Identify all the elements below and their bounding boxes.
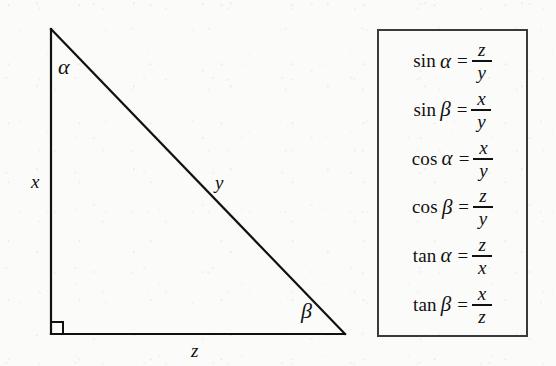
fraction: x y [473, 138, 493, 180]
fraction-numerator: x [475, 284, 489, 303]
side-label-y: y [215, 173, 223, 192]
equals-sign: = [457, 294, 468, 316]
function-name: sin [413, 50, 436, 72]
fraction-denominator: y [476, 161, 490, 180]
function-argument: α [442, 146, 453, 171]
fraction-denominator: y [475, 63, 489, 82]
fraction-numerator: x [474, 89, 488, 108]
angle-label-beta: β [301, 300, 312, 322]
formula-row: sin α = z y [413, 39, 492, 83]
fraction: z y [473, 186, 493, 228]
function-name: tan [413, 245, 437, 267]
trigonometric-identities-box: sin α = z y sin β = x y cos α = x y cos … [377, 29, 528, 337]
fraction-denominator: z [475, 307, 488, 326]
fraction: z y [472, 40, 492, 82]
angle-label-alpha: α [58, 56, 70, 78]
fraction-numerator: z [475, 40, 488, 59]
right-angle-marker-icon [51, 322, 63, 334]
equals-sign: = [459, 148, 470, 170]
fraction: x y [471, 89, 491, 131]
fraction-denominator: x [475, 258, 489, 277]
fraction-denominator: y [474, 112, 488, 131]
function-argument: α [440, 49, 451, 74]
function-name: tan [413, 294, 437, 316]
fraction-numerator: x [476, 138, 490, 157]
fraction-numerator: z [476, 235, 489, 254]
triangle-hypotenuse [51, 29, 345, 334]
formula-row: tan β = x z [413, 283, 492, 327]
fraction: z x [472, 235, 492, 277]
fraction: x z [472, 284, 492, 326]
fraction-numerator: z [476, 186, 489, 205]
equals-sign: = [457, 50, 468, 72]
fraction-denominator: y [476, 209, 490, 228]
function-name: cos [412, 196, 438, 218]
side-label-x: x [31, 172, 39, 191]
side-label-z: z [191, 341, 198, 360]
formula-row: cos β = z y [412, 185, 493, 229]
function-argument: β [441, 292, 451, 317]
equals-sign: = [458, 196, 469, 218]
formula-row: cos α = x y [412, 137, 494, 181]
formula-row: sin β = x y [414, 88, 492, 132]
equals-sign: = [457, 99, 468, 121]
function-argument: β [440, 97, 450, 122]
function-name: cos [412, 148, 438, 170]
function-argument: α [441, 243, 452, 268]
function-name: sin [414, 99, 437, 121]
function-argument: β [442, 195, 452, 220]
equals-sign: = [458, 245, 469, 267]
formula-row: tan α = z x [413, 234, 493, 278]
